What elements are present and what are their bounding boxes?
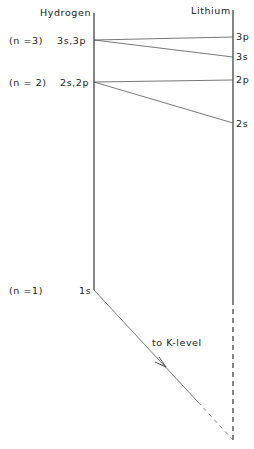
n1-label: (n =1) — [9, 286, 43, 296]
energy-level-diagram — [0, 0, 254, 449]
hydrogen-title: Hydrogen — [40, 8, 91, 18]
li-level-2p: 2p — [236, 75, 249, 85]
n2-label: (n = 2) — [9, 78, 47, 88]
h-level-2s2p: 2s,2p — [60, 78, 89, 88]
connector-3-to-3p — [94, 37, 233, 40]
connector-2-to-2s — [94, 82, 233, 123]
li-level-3p: 3p — [236, 32, 249, 42]
n3-label: (n =3) — [9, 36, 43, 46]
connector-3-to-3s — [94, 40, 233, 57]
h-level-1s: 1s — [79, 286, 91, 296]
h-level-3s3p: 3s,3p — [57, 36, 86, 46]
k-level-label: to K-level — [152, 338, 202, 348]
connector-2-to-2p — [94, 80, 233, 82]
li-level-3s: 3s — [236, 52, 248, 62]
connector-1s-to-k-dashed — [198, 402, 233, 440]
lithium-title: Lithium — [191, 6, 231, 16]
li-level-2s: 2s — [236, 119, 248, 129]
